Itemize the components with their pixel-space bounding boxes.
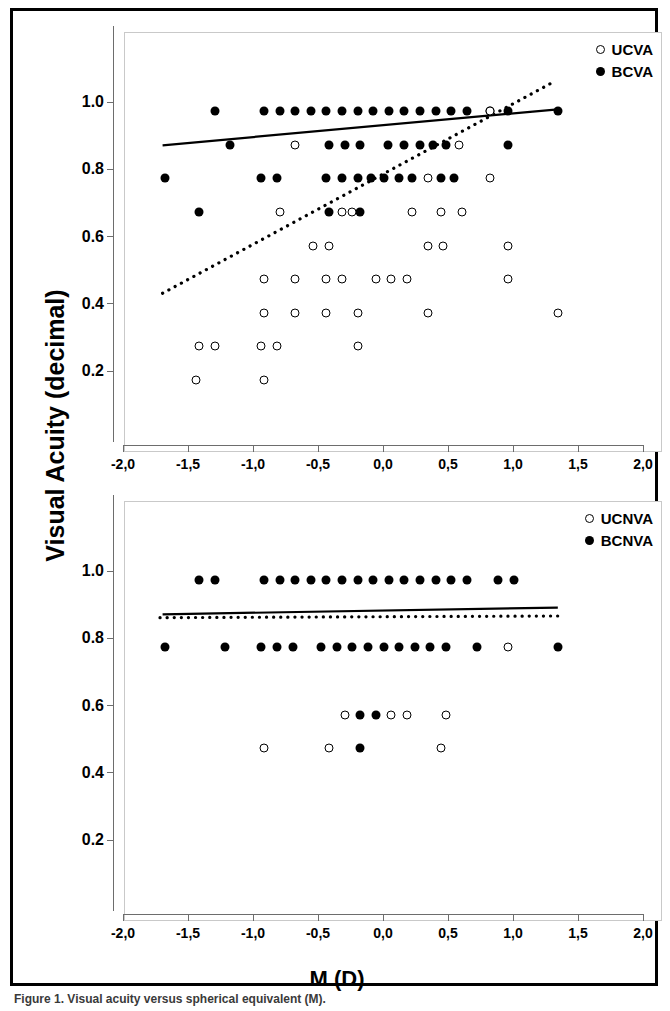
data-point-bcnva [416, 576, 425, 585]
data-point-bcva [408, 174, 417, 183]
data-point-bcva [504, 140, 513, 149]
legend-item-bcva: BCVA [596, 61, 653, 83]
x-axis-tick-label: 0,0 [373, 456, 392, 472]
trend-line-dotted [160, 616, 558, 618]
data-point-bcnva [364, 643, 373, 652]
data-point-bcnva [395, 643, 404, 652]
data-point-ucva [338, 275, 347, 284]
data-point-ucva [338, 207, 347, 216]
data-point-bcnva [317, 643, 326, 652]
y-axis-tick-label: 0.6 [52, 697, 104, 715]
figure-frame: Visual Acuity (decimal) UCVABCVA -2,0-1,… [10, 8, 658, 986]
data-point-bcnva [369, 576, 378, 585]
y-axis-tick-label: 0.2 [52, 831, 104, 849]
data-point-ucva [387, 275, 396, 284]
data-point-ucva [371, 275, 380, 284]
data-point-bcva [369, 107, 378, 116]
data-point-bcnva [426, 643, 435, 652]
data-point-ucva [325, 241, 334, 250]
y-axis-line [113, 26, 114, 442]
data-point-bcva [379, 174, 388, 183]
data-point-ucva [408, 207, 417, 216]
data-point-ucva [260, 376, 269, 385]
x-axis-tick-label: 1,0 [503, 925, 522, 941]
data-point-bcva [400, 107, 409, 116]
data-point-bcnva [371, 710, 380, 719]
data-point-bcnva [431, 576, 440, 585]
legend-bottom: UCNVABCNVA [585, 508, 653, 552]
legend-label: UCNVA [601, 508, 653, 530]
data-point-bcva [416, 140, 425, 149]
data-point-bcva [429, 140, 438, 149]
data-point-bcnva [306, 576, 315, 585]
data-point-bcva [353, 107, 362, 116]
data-point-bcnva [410, 643, 419, 652]
data-point-bcnva [257, 643, 266, 652]
y-axis-title: Visual Acuity (decimal) [41, 216, 70, 636]
x-axis-tick-label: -2,0 [111, 456, 135, 472]
y-axis-line [113, 495, 114, 911]
data-point-bcva [275, 107, 284, 116]
figure-caption: Figure 1. Visual acuity versus spherical… [14, 992, 654, 1009]
data-point-ucva [553, 308, 562, 317]
x-axis-tick-label: 1,5 [568, 925, 587, 941]
data-point-bcnva [348, 643, 357, 652]
data-point-bcnva [442, 643, 451, 652]
data-point-bcva [257, 174, 266, 183]
data-point-bcnva [379, 643, 388, 652]
x-axis-tick-label: 0,5 [438, 456, 457, 472]
y-axis-tick-label: 0.8 [52, 160, 104, 178]
data-point-ucva [348, 207, 357, 216]
plot-area-top [125, 33, 661, 451]
data-point-bcva [436, 174, 445, 183]
x-axis-tick-label: -1,0 [241, 925, 265, 941]
chart-panel-bottom: UCNVABCNVA [124, 501, 662, 921]
data-point-bcva [384, 107, 393, 116]
data-point-bcva [291, 107, 300, 116]
data-point-ucva [195, 342, 204, 351]
data-point-bcnva [356, 710, 365, 719]
data-point-ucnva [387, 710, 396, 719]
y-axis-tick [107, 236, 114, 237]
data-point-bcva [273, 174, 282, 183]
y-axis-tick [107, 571, 114, 572]
data-point-bcva [366, 174, 375, 183]
x-axis-tick-label: 0,0 [373, 925, 392, 941]
data-point-ucnva [260, 744, 269, 753]
data-point-bcva [504, 107, 513, 116]
data-point-bcva [356, 207, 365, 216]
data-point-bcva [325, 207, 334, 216]
y-axis-tick [107, 169, 114, 170]
filled-circle-icon [585, 536, 594, 545]
y-axis-tick [107, 840, 114, 841]
data-point-ucnva [504, 643, 513, 652]
data-point-bcnva [356, 744, 365, 753]
data-point-bcva [325, 140, 334, 149]
data-point-ucva [309, 241, 318, 250]
data-point-bcnva [210, 576, 219, 585]
x-axis-tick-label: -1,5 [176, 456, 200, 472]
data-point-bcva [383, 140, 392, 149]
y-axis-tick-label: 1.0 [52, 93, 104, 111]
data-point-ucva [192, 376, 201, 385]
legend-label: UCVA [612, 39, 653, 61]
data-point-bcnva [400, 576, 409, 585]
data-point-ucva [455, 140, 464, 149]
data-point-bcva [306, 107, 315, 116]
x-axis-tick-label: 1,5 [568, 456, 587, 472]
data-point-bcva [338, 107, 347, 116]
data-point-bcnva [161, 643, 170, 652]
data-point-ucva [353, 342, 362, 351]
x-axis-tick-label: -2,0 [111, 925, 135, 941]
data-point-ucnva [442, 710, 451, 719]
filled-circle-icon [596, 67, 605, 76]
data-point-ucva [353, 308, 362, 317]
data-point-bcnva [291, 576, 300, 585]
y-axis-tick [107, 371, 114, 372]
y-axis-tick [107, 102, 114, 103]
data-point-bcnva [260, 576, 269, 585]
data-point-ucva [486, 174, 495, 183]
data-point-bcnva [509, 576, 518, 585]
data-point-bcva [395, 174, 404, 183]
data-point-ucva [260, 308, 269, 317]
